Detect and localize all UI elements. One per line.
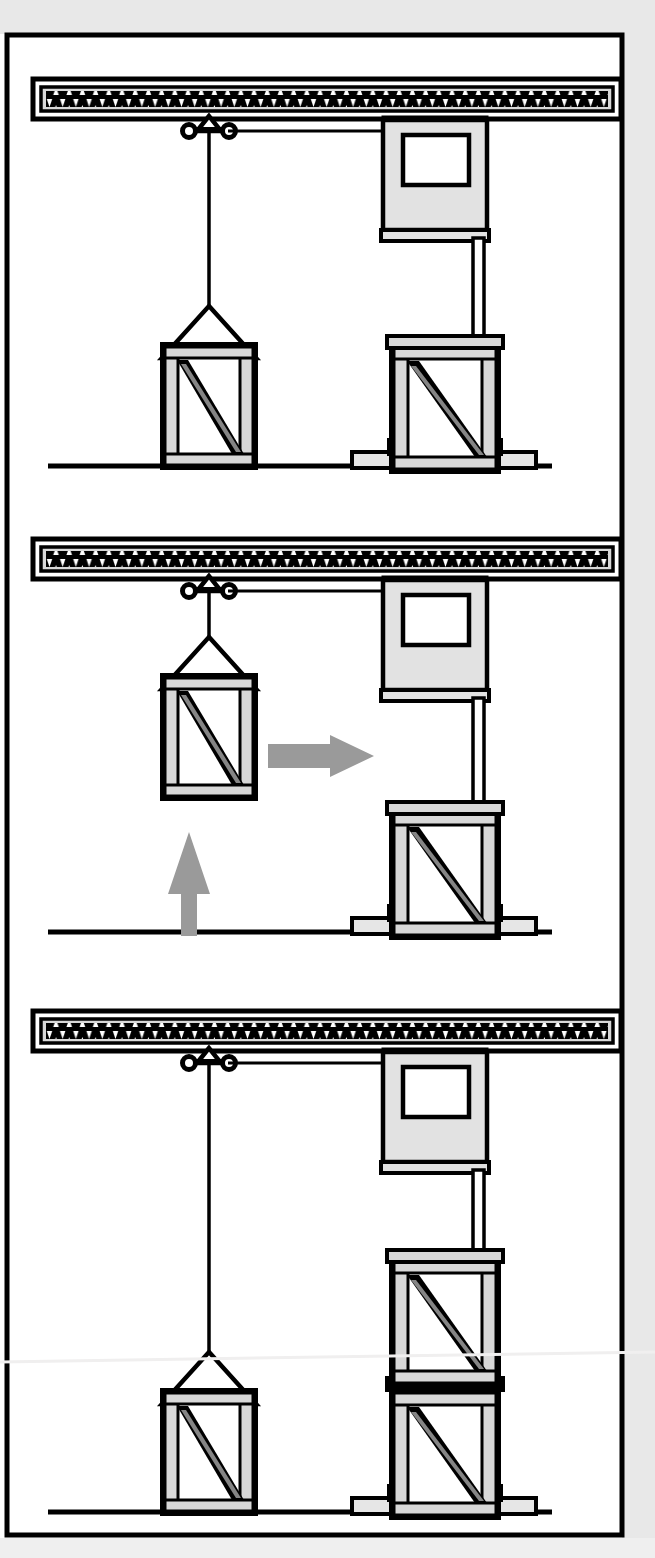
figure-root: Modular crane lifting and stacking seque… xyxy=(0,0,655,1558)
operator-cab xyxy=(381,1052,489,1173)
tower-cap-beam xyxy=(387,336,503,348)
support-tower-tier-1 xyxy=(391,1390,499,1518)
support-tower-tier-1 xyxy=(391,810,499,938)
support-tower-tier-2 xyxy=(391,1258,499,1386)
overhead-girder xyxy=(33,1011,621,1051)
tower-cap-beam xyxy=(387,1250,503,1262)
operator-cab xyxy=(381,580,489,701)
overhead-girder xyxy=(33,539,621,579)
load-module xyxy=(162,1390,256,1514)
load-module xyxy=(162,344,256,468)
plate-border xyxy=(7,35,622,1535)
operator-cab xyxy=(381,120,489,241)
diagram-canvas xyxy=(0,0,655,1558)
tower-cap-beam xyxy=(387,802,503,814)
load-module xyxy=(162,675,256,799)
support-tower-tier-1 xyxy=(391,344,499,472)
cab-column xyxy=(473,698,484,810)
overhead-girder xyxy=(33,79,621,119)
